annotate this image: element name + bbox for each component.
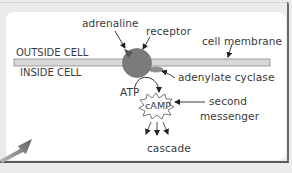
adenylate-cyclase-label: adenylate cyclase xyxy=(178,72,274,83)
outside-cell-label: OUTSIDE CELL xyxy=(16,48,88,58)
camp-label: cAMP xyxy=(145,101,171,111)
inside-cell-label: INSIDE CELL xyxy=(20,68,81,78)
second-label: second xyxy=(209,96,247,107)
adenylate-cyclase-shape xyxy=(149,67,163,72)
pointer-arrow-icon xyxy=(0,139,32,163)
atp-label: ATP xyxy=(120,87,139,98)
cell-membrane-label: cell membrane xyxy=(202,36,282,47)
messenger-label: messenger xyxy=(200,111,259,122)
adrenaline-label: adrenaline xyxy=(82,18,139,29)
receptor-label: receptor xyxy=(146,26,191,37)
cascade-label: cascade xyxy=(147,143,191,154)
